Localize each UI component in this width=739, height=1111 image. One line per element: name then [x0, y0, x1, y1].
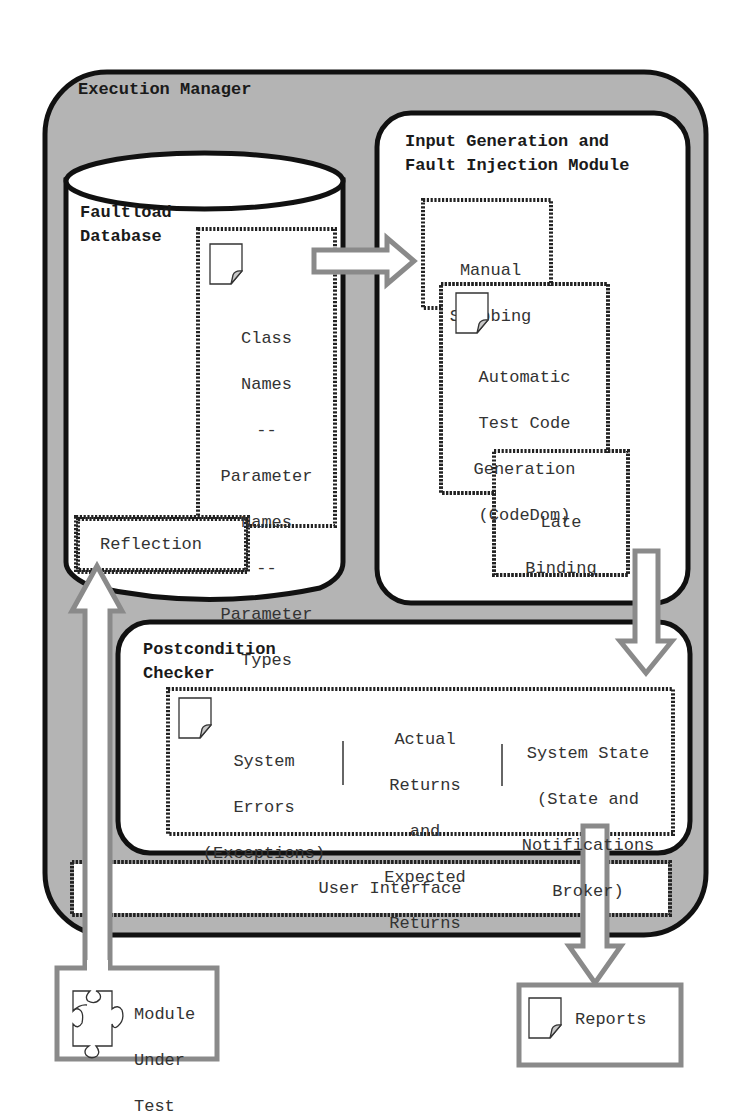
execution-manager-title: Execution Manager	[78, 79, 251, 101]
manual-stubbing-line2: Stubbing	[438, 305, 543, 328]
metadata-separator: --	[198, 557, 335, 580]
input-module-title-line2: Fault Injection Module	[405, 155, 629, 177]
module-under-test-line1: Module	[134, 1003, 214, 1026]
column-line: Errors	[184, 796, 344, 819]
input-module-title-line1: Input Generation and	[405, 131, 609, 153]
reports-label: Reports	[575, 1008, 646, 1031]
metadata-line: Names	[198, 511, 335, 534]
document-icon	[455, 292, 489, 334]
column-line: (Exceptions)	[184, 842, 344, 865]
column-line: Actual	[350, 728, 500, 751]
document-icon	[528, 997, 562, 1039]
postcondition-column-returns: Actual Returns and Expected Returns	[350, 705, 500, 958]
column-line: System	[184, 750, 344, 773]
automatic-generation-line3: Generation	[441, 458, 608, 481]
column-line: System State	[502, 742, 674, 765]
column-line: (State and	[502, 788, 674, 811]
late-binding-label: Late Binding	[494, 488, 628, 603]
late-binding-line1: Late	[494, 511, 628, 534]
metadata-line: Parameter	[198, 465, 335, 488]
manual-stubbing-line1: Manual	[438, 259, 543, 282]
module-under-test-line3: Test	[134, 1095, 214, 1111]
metadata-line: Parameter	[198, 603, 335, 626]
late-binding-line2: Binding	[494, 557, 628, 580]
postcondition-title-line2: Checker	[143, 663, 214, 685]
column-line: and	[350, 820, 500, 843]
module-under-test-label: Module Under Test	[134, 980, 214, 1111]
user-interface-label: User Interface	[110, 877, 670, 900]
automatic-generation-line1: Automatic	[441, 366, 608, 389]
automatic-generation-line2: Test Code	[441, 412, 608, 435]
metadata-separator: --	[198, 419, 335, 442]
postcondition-title-line1: Postcondition	[143, 639, 276, 661]
document-icon	[209, 243, 243, 285]
faultload-database-title-line2: Database	[80, 226, 162, 248]
column-line: Notifications	[502, 834, 674, 857]
manual-stubbing-label: Manual Stubbing	[438, 236, 543, 351]
metadata-line: Names	[198, 373, 335, 396]
metadata-list: Class Names -- Parameter Names -- Parame…	[198, 304, 335, 695]
faultload-database-title-line1: Faultload	[80, 202, 172, 224]
reflection-label: Reflection	[76, 533, 226, 556]
module-under-test-line2: Under	[134, 1049, 214, 1072]
column-line: Returns	[350, 774, 500, 797]
column-line: Returns	[350, 912, 500, 935]
metadata-line: Class	[198, 327, 335, 350]
postcondition-column-system-errors: System Errors (Exceptions)	[184, 727, 344, 888]
